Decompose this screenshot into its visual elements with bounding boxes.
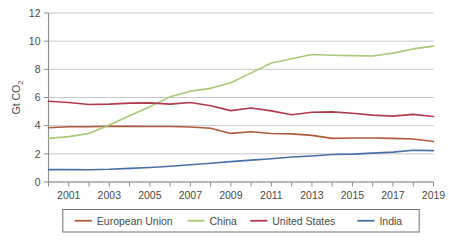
y-axis-title-group: Gt CO2 (10, 81, 25, 115)
series-line-india (49, 150, 434, 169)
series-line-european-union (49, 126, 434, 141)
y-tick-label-10: 10 (29, 35, 41, 47)
x-axis-ticks: 2001200320052007200920112013201520172019 (49, 182, 446, 201)
chart-canvas: 0246810122001200320052007200920112013201… (0, 0, 449, 241)
legend-label-united-states: United States (272, 215, 335, 227)
y-tick-label-12: 12 (29, 7, 41, 19)
legend-label-china: China (210, 215, 238, 227)
x-tick-label-2001: 2001 (57, 189, 81, 201)
x-tick-label-2007: 2007 (179, 189, 203, 201)
legend-label-european-union: European Union (97, 215, 173, 227)
y-axis-title: Gt CO2 (10, 81, 25, 115)
x-tick-label-2011: 2011 (260, 189, 283, 201)
y-tick-label-4: 4 (35, 119, 41, 131)
x-tick-label-2005: 2005 (138, 189, 162, 201)
legend-label-india: India (379, 215, 402, 227)
series-group (49, 46, 434, 170)
legend: European UnionChinaUnited StatesIndia (63, 210, 419, 233)
y-axis-ticks: 024681012 (29, 7, 49, 188)
y-tick-label-8: 8 (35, 63, 41, 75)
x-tick-label-2013: 2013 (300, 189, 324, 201)
x-tick-label-2019: 2019 (422, 189, 446, 201)
y-tick-label-2: 2 (35, 148, 41, 160)
y-tick-label-0: 0 (35, 176, 41, 188)
x-tick-label-2015: 2015 (341, 189, 365, 201)
x-tick-label-2009: 2009 (219, 189, 243, 201)
y-tick-label-6: 6 (35, 91, 41, 103)
x-tick-label-2017: 2017 (381, 189, 405, 201)
co2-emissions-line-chart: 0246810122001200320052007200920112013201… (0, 0, 449, 241)
gridlines-group (49, 13, 434, 182)
series-line-china (49, 46, 434, 138)
x-tick-label-2003: 2003 (98, 189, 122, 201)
series-line-united-states (49, 101, 434, 116)
